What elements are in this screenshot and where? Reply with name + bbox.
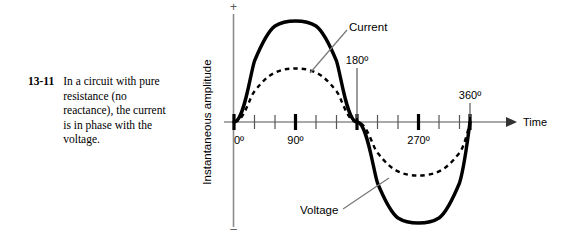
- x-tick-label-90: 90º: [287, 134, 303, 146]
- x-axis-arrowhead: [506, 117, 517, 127]
- y-axis-label: Instantaneous amplitude: [201, 59, 213, 184]
- voltage-series-label: Voltage: [300, 204, 338, 216]
- y-axis-minus-sign: –: [230, 222, 237, 236]
- annotation-180-label: 180º: [346, 54, 368, 66]
- current-leader-line: [310, 30, 347, 73]
- figure-13-11: 13-11 In a circuit with pure resistance …: [0, 0, 570, 240]
- x-tick-label-0: 0º: [234, 134, 244, 146]
- y-axis-plus-sign: +: [230, 0, 237, 14]
- current-series-label: Current: [349, 21, 388, 33]
- annotation-360-label: 360º: [459, 89, 481, 101]
- sine-wave-plot: + – Instantaneous amplitude: [0, 0, 570, 240]
- x-tick-label-270: 270º: [407, 134, 429, 146]
- x-axis-label: Time: [523, 116, 547, 128]
